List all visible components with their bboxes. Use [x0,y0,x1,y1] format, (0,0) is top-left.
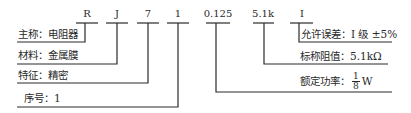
label-power: 额定功率：18W [300,72,373,91]
label-main-name: 主称：电阻器 [18,28,78,41]
power-fraction: 18 [352,72,360,91]
code-7: 7 [133,8,163,20]
code-r: R [72,8,102,20]
code-1: 1 [163,8,193,20]
label-power-unit: W [362,75,373,87]
label-material: 材料：金属膜 [18,49,78,62]
power-denominator: 8 [352,82,360,91]
resistor-model-code-diagram: R J 7 1 0.125 5.1k I 主称：电阻器 材料：金属膜 特征：精密… [0,0,411,113]
label-tolerance: 允许误差：I 级 ±5% [301,28,397,41]
label-feature: 特征：精密 [18,69,68,82]
label-resistance: 标称阻值：5.1kΩ [300,50,382,63]
code-j: J [102,8,132,20]
code-power: 0.125 [203,8,233,20]
label-power-prefix: 额定功率： [300,75,350,87]
label-serial: 序号：1 [24,92,61,105]
code-tolerance: I [287,8,317,20]
code-resistance: 5.1k [248,8,278,20]
